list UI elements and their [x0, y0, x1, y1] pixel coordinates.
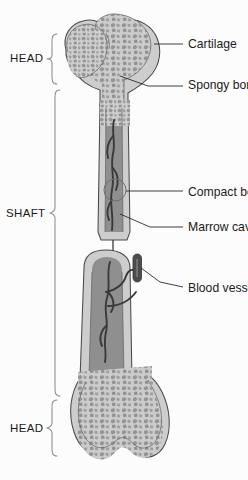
- callout-label-spongy-bone: Spongy bone: [188, 78, 248, 92]
- upper-shaft-group: [98, 100, 130, 240]
- upper-shaft-spongy-transition: [100, 100, 130, 126]
- bracket-head-bottom: [47, 400, 57, 456]
- bone-diagram: HEAD SHAFT HEAD Cartilage Spongy bone Co…: [0, 0, 248, 480]
- callout-label-blood-vessel: Blood vessel: [188, 281, 248, 295]
- region-label-texts: HEAD SHAFT HEAD: [6, 52, 45, 434]
- region-label-shaft: SHAFT: [6, 207, 45, 219]
- distal-head-group: [66, 364, 170, 464]
- spongy-bone-texture-distal: [66, 364, 170, 464]
- bracket-head-top: [47, 34, 57, 84]
- callout-label-texts: Cartilage Spongy bone Compact bone Marro…: [188, 37, 248, 295]
- callout-label-marrow-cavity: Marrow cavity: [188, 220, 248, 234]
- region-label-head-bottom: HEAD: [10, 422, 43, 434]
- blood-vessel-external: [133, 254, 142, 282]
- region-brackets: [47, 34, 60, 456]
- leader-blood-vessel: [141, 268, 183, 287]
- callout-label-cartilage: Cartilage: [188, 37, 237, 51]
- callout-label-compact-bone: Compact bone: [188, 185, 248, 199]
- diagram-canvas: HEAD SHAFT HEAD Cartilage Spongy bone Co…: [0, 0, 248, 480]
- bracket-shaft: [50, 90, 60, 396]
- proximal-head-group: [62, 12, 160, 110]
- lower-shaft-group: [80, 250, 137, 380]
- region-label-head-top: HEAD: [10, 52, 43, 64]
